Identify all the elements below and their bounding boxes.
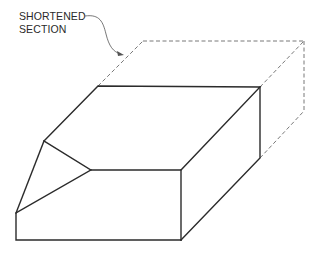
shortened-section-outline: [98, 41, 304, 158]
chamfer-left-edge: [16, 141, 44, 213]
leader-arrow: [85, 16, 124, 56]
solid-block: [16, 86, 260, 240]
top-face: [44, 86, 260, 170]
side-face: [181, 87, 260, 240]
front-face: [16, 170, 181, 240]
label-line-1: SHORTENED: [19, 10, 86, 22]
label-line-2: SECTION: [19, 23, 66, 35]
shortened-section-drawing: SHORTENED SECTION: [0, 0, 321, 253]
arrowhead-icon: [117, 51, 124, 56]
